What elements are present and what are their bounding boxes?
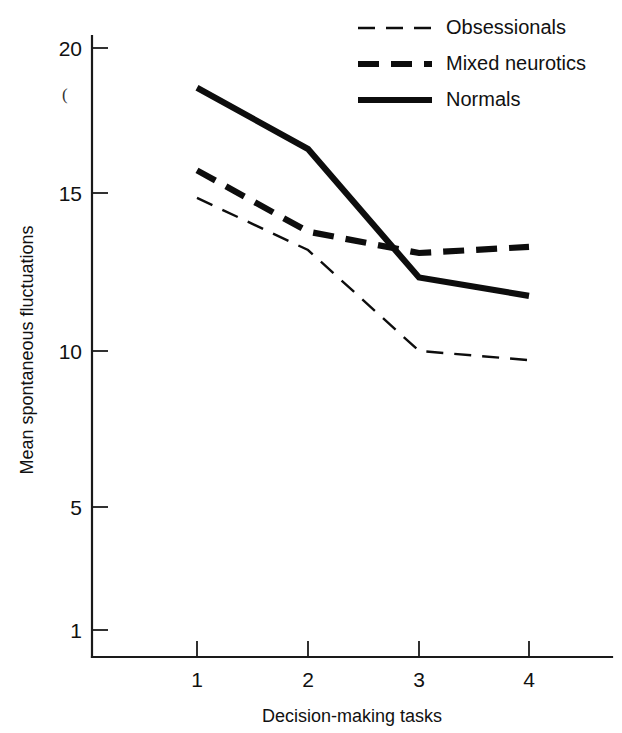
- legend: Obsessionals Mixed neurotics Normals: [358, 16, 586, 110]
- x-axis-title: Decision-making tasks: [262, 706, 442, 726]
- series-line-obsessionals: [197, 198, 529, 360]
- y-axis-title: Mean spontaneous fluctuations: [17, 225, 37, 474]
- y-tick-label-20: 20: [59, 37, 82, 60]
- line-chart-svg: 20 15 10 5 1 ( 1 2 3 4 Decision-making t…: [0, 0, 622, 733]
- stray-ink-mark: (: [62, 85, 68, 104]
- y-tick-label-5: 5: [70, 496, 82, 519]
- chart-figure: 20 15 10 5 1 ( 1 2 3 4 Decision-making t…: [0, 0, 622, 733]
- legend-label-obsessionals: Obsessionals: [446, 16, 566, 38]
- y-tick-label-15: 15: [59, 182, 82, 205]
- legend-item-mixed-neurotics[interactable]: Mixed neurotics: [358, 52, 586, 74]
- legend-label-normals: Normals: [446, 88, 520, 110]
- x-tick-label-3: 3: [413, 668, 425, 691]
- legend-item-normals[interactable]: Normals: [358, 88, 520, 110]
- y-tick-label-1: 1: [70, 619, 82, 642]
- y-tick-label-10: 10: [59, 340, 82, 363]
- series-line-normals: [197, 88, 529, 296]
- x-tick-label-1: 1: [191, 668, 203, 691]
- x-tick-label-2: 2: [302, 668, 314, 691]
- legend-item-obsessionals[interactable]: Obsessionals: [358, 16, 566, 38]
- x-tick-label-4: 4: [523, 668, 535, 691]
- legend-label-mixed-neurotics: Mixed neurotics: [446, 52, 586, 74]
